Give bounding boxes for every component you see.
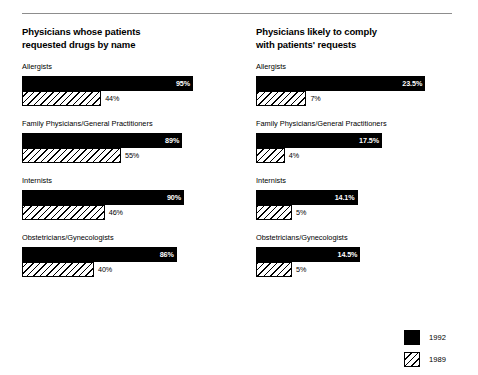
bar-row-1992: 23.5% <box>256 76 478 91</box>
bar-row-1989: 55% <box>22 148 238 163</box>
bar-value-label: 7% <box>306 94 320 103</box>
bar-value-label: 14.1% <box>335 193 358 202</box>
bar-row-1992: 86% <box>22 247 238 262</box>
panel-right-title: Physicians likely to comply with patient… <box>256 26 478 51</box>
bar-row-1989: 7% <box>256 91 478 106</box>
bar-value-label: 90% <box>167 193 184 202</box>
bar-row-1992: 95% <box>22 76 238 91</box>
bar-group: Internists 90% 46% <box>22 176 238 220</box>
bar-pair: 86% 40% <box>22 247 238 277</box>
bar-row-1992: 89% <box>22 133 238 148</box>
legend-swatch-solid-icon <box>404 330 420 345</box>
bar-group: Obstetricians/Gynecologists 86% 40% <box>22 233 238 277</box>
group-label: Family Physicians/General Practitioners <box>256 119 478 128</box>
legend-label: 1992 <box>420 333 446 342</box>
group-label: Allergists <box>22 62 238 71</box>
bar-group: Allergists 95% 44% <box>22 62 238 106</box>
bar-group: Allergists 23.5% 7% <box>256 62 478 106</box>
group-label: Internists <box>256 176 478 185</box>
bar-value-label: 14.5% <box>338 250 361 259</box>
bar-value-label: 46% <box>105 208 123 217</box>
bar-row-1992: 90% <box>22 190 238 205</box>
bar-value-label: 89% <box>165 136 182 145</box>
bar-value-label: 55% <box>121 151 139 160</box>
bar-1992: 86% <box>22 247 177 262</box>
bar-group: Internists 14.1% 5% <box>256 176 478 220</box>
panel-left-title: Physicians whose patients requested drug… <box>22 26 238 51</box>
chart-figure: Physicians whose patients requested drug… <box>0 0 478 375</box>
bar-row-1989: 4% <box>256 148 478 163</box>
bar-row-1992: 17.5% <box>256 133 478 148</box>
bar-1989 <box>256 148 285 163</box>
bar-1992: 90% <box>22 190 184 205</box>
bar-1989 <box>22 91 101 106</box>
bar-pair: 14.1% 5% <box>256 190 478 220</box>
bar-1989 <box>256 91 306 106</box>
bar-1989 <box>22 148 121 163</box>
bar-1992: 14.5% <box>256 247 360 262</box>
bar-value-label: 17.5% <box>359 136 382 145</box>
bar-value-label: 5% <box>292 208 306 217</box>
bar-value-label: 5% <box>292 265 306 274</box>
bar-value-label: 4% <box>285 151 299 160</box>
bar-row-1989: 40% <box>22 262 238 277</box>
bar-row-1992: 14.5% <box>256 247 478 262</box>
bar-value-label: 95% <box>176 79 193 88</box>
bar-row-1992: 14.1% <box>256 190 478 205</box>
bar-value-label: 40% <box>94 265 112 274</box>
bar-group: Family Physicians/General Practitioners … <box>22 119 238 163</box>
bar-1989 <box>22 262 94 277</box>
bar-1992: 14.1% <box>256 190 358 205</box>
bar-1992: 23.5% <box>256 76 425 91</box>
panel-right-groups: Allergists 23.5% 7% Fa <box>256 62 478 277</box>
legend-swatch-hatch-icon <box>404 352 420 367</box>
bar-pair: 90% 46% <box>22 190 238 220</box>
bar-1989 <box>22 205 105 220</box>
panel-right: Physicians likely to comply with patient… <box>238 26 478 277</box>
group-label: Allergists <box>256 62 478 71</box>
bar-value-label: 86% <box>160 250 177 259</box>
bar-pair: 95% 44% <box>22 76 238 106</box>
bar-pair: 89% 55% <box>22 133 238 163</box>
bar-1989 <box>256 205 292 220</box>
bar-pair: 23.5% 7% <box>256 76 478 106</box>
legend-item-1989: 1989 <box>404 351 446 368</box>
bar-row-1989: 5% <box>256 262 478 277</box>
panel-left-groups: Allergists 95% 44% Fam <box>22 62 238 277</box>
bar-row-1989: 46% <box>22 205 238 220</box>
bar-pair: 17.5% 4% <box>256 133 478 163</box>
group-label: Family Physicians/General Practitioners <box>22 119 238 128</box>
bar-value-label: 44% <box>101 94 119 103</box>
group-label: Obstetricians/Gynecologists <box>256 233 478 242</box>
chart-panels: Physicians whose patients requested drug… <box>0 26 478 277</box>
legend-label: 1989 <box>420 355 446 364</box>
bar-value-label: 23.5% <box>402 79 425 88</box>
group-label: Obstetricians/Gynecologists <box>22 233 238 242</box>
bar-1992: 89% <box>22 133 182 148</box>
bar-1992: 17.5% <box>256 133 382 148</box>
legend-item-1992: 1992 <box>404 329 446 346</box>
panel-left: Physicians whose patients requested drug… <box>0 26 238 277</box>
bar-group: Family Physicians/General Practitioners … <box>256 119 478 163</box>
bar-row-1989: 44% <box>22 91 238 106</box>
group-label: Internists <box>22 176 238 185</box>
bar-1989 <box>256 262 292 277</box>
bar-group: Obstetricians/Gynecologists 14.5% 5% <box>256 233 478 277</box>
bar-row-1989: 5% <box>256 205 478 220</box>
bar-pair: 14.5% 5% <box>256 247 478 277</box>
chart-legend: 1992 1989 <box>404 329 446 368</box>
header-rule <box>22 13 452 14</box>
bar-1992: 95% <box>22 76 193 91</box>
